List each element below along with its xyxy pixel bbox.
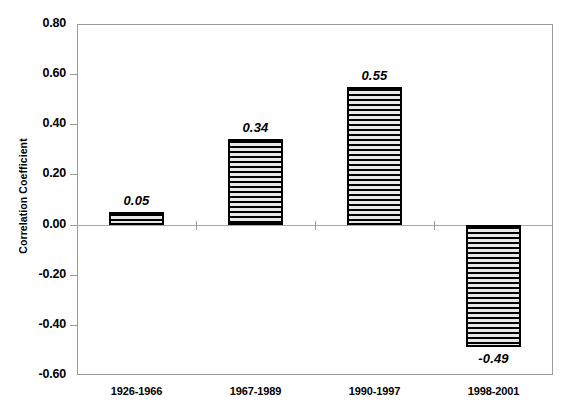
y-axis-tick-label: 0.60 — [0, 67, 66, 81]
y-axis-tick-label-text: 0.80 — [2, 17, 66, 30]
bar — [466, 225, 521, 348]
bar — [228, 139, 283, 224]
y-axis-tick-label: -0.40 — [0, 318, 66, 332]
bar-value-label: -0.49 — [434, 352, 553, 365]
x-axis-category-label: 1926-1966 — [77, 386, 196, 397]
bar-value-label: 0.05 — [77, 194, 196, 207]
y-axis-tick-label-text: -0.40 — [2, 318, 66, 331]
y-axis-tick-label-text: 0.40 — [2, 117, 66, 130]
y-axis-tick-label-text: 0.00 — [2, 218, 66, 231]
x-axis-category-label: 1990-1997 — [315, 386, 434, 397]
y-axis-tick-label: 0.20 — [0, 167, 66, 181]
x-axis-category-label: 1967-1989 — [196, 386, 315, 397]
y-axis-tick-label-text: 0.20 — [2, 167, 66, 180]
y-axis-tick-label-text: 0.60 — [2, 67, 66, 80]
x-axis-tick — [196, 221, 197, 230]
bar — [109, 212, 164, 225]
x-axis-tick — [434, 221, 435, 230]
y-axis-tick-label: -0.60 — [0, 368, 66, 382]
y-axis-tick-label: 0.00 — [0, 218, 66, 232]
y-axis-tick-label: 0.80 — [0, 17, 66, 31]
x-axis-category-label: 1998-2001 — [434, 386, 553, 397]
bar-value-label: 0.34 — [196, 121, 315, 134]
y-axis-tick-label-text: -0.20 — [2, 268, 66, 281]
y-axis-tick-label: 0.40 — [0, 117, 66, 131]
bar — [347, 87, 402, 225]
x-axis-tick — [315, 221, 316, 230]
y-axis-tick-label-text: -0.60 — [2, 368, 66, 381]
bar-chart: Correlation Coefficient 0.800.600.400.20… — [0, 0, 574, 415]
y-axis-tick-label: -0.20 — [0, 268, 66, 282]
bar-value-label: 0.55 — [315, 69, 434, 82]
